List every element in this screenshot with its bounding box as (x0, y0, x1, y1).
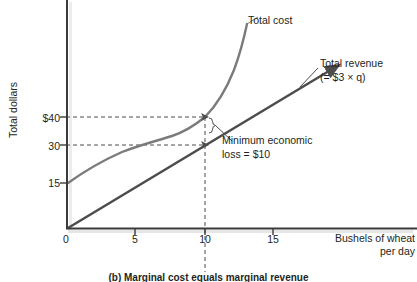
yaxis-shadow (69, 2, 72, 230)
x-axis-title: Bushels of wheat per day (321, 232, 415, 258)
series-label-total-cost: Total cost (248, 14, 292, 26)
y-tick-label-15: 15 (24, 177, 60, 189)
y-tick-label-40: $40 (24, 112, 60, 124)
series-label-total-revenue-equation: (= $3 × q) (320, 71, 383, 85)
annotation-minimum-economic-loss: Minimum economic loss = $10 (222, 134, 312, 161)
annotation-minimum-economic-loss-line2: loss = $10 (222, 148, 312, 162)
x-axis-title-line2: per day (380, 245, 415, 257)
y-tick-label-30: 30 (24, 140, 60, 152)
x-tick-label-15: 15 (260, 233, 286, 245)
annotation-minimum-economic-loss-line1: Minimum economic (222, 134, 312, 148)
y-axis-title: Total dollars (7, 71, 19, 149)
x-tick-label-10: 10 (192, 233, 218, 245)
x-tick-label-5: 5 (122, 233, 148, 245)
x-tick-label-0: 0 (53, 233, 79, 245)
figure-caption: (b) Marginal cost equals marginal revenu… (0, 272, 417, 282)
series-label-total-revenue: Total revenue (= $3 × q) (320, 57, 383, 84)
x-axis-title-line1: Bushels of wheat (335, 232, 415, 244)
figure-panel: $40 30 15 0 5 10 15 Total dollars Bushel… (0, 0, 417, 282)
series-label-total-revenue-text: Total revenue (320, 57, 383, 69)
